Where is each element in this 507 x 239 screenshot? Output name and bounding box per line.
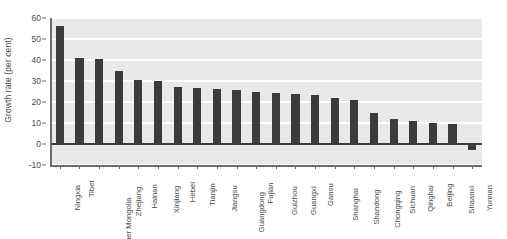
x-axis-tick-label: Jiangsu bbox=[230, 185, 239, 212]
x-axis-tick-label: Hebei bbox=[188, 182, 197, 202]
x-axis-tick-label: Zhejiang bbox=[133, 187, 142, 217]
y-axis-tick-mark bbox=[42, 81, 46, 82]
y-axis-tick-label: 10 bbox=[32, 118, 41, 128]
x-axis-tick-mark bbox=[158, 165, 159, 169]
y-axis-tick-mark bbox=[42, 144, 46, 145]
y-axis-tick-label: 0 bbox=[36, 139, 41, 149]
plot-area bbox=[50, 18, 482, 165]
bar bbox=[448, 124, 456, 144]
bar bbox=[390, 119, 398, 144]
x-axis-tick-label: Tianjin bbox=[208, 183, 217, 205]
bar-series bbox=[50, 18, 482, 165]
y-axis-tick-label: 60 bbox=[32, 13, 41, 23]
y-axis-tick-mark bbox=[42, 18, 46, 19]
x-axis-tick-mark bbox=[79, 165, 80, 169]
y-axis-tick-label: 40 bbox=[32, 55, 41, 65]
x-axis-tick-mark bbox=[99, 165, 100, 169]
x-axis-tick-mark bbox=[295, 165, 296, 169]
x-axis-tick-label: Sichuan bbox=[408, 186, 417, 214]
y-axis-tick-label: 20 bbox=[32, 97, 41, 107]
y-axis-tick-mark bbox=[42, 123, 46, 124]
bar bbox=[115, 71, 123, 145]
x-axis-tick-label: Chongqing bbox=[393, 191, 402, 228]
x-axis-tick-mark bbox=[374, 165, 375, 169]
bar bbox=[232, 90, 240, 144]
bar bbox=[468, 144, 476, 150]
x-axis-tick-mark bbox=[178, 165, 179, 169]
x-axis-spine bbox=[50, 165, 482, 167]
y-axis-spine bbox=[50, 18, 52, 165]
x-axis-tick-label: Shandong bbox=[372, 190, 381, 225]
bar-chart: Growth rate (per cent) 6050403020100-10 … bbox=[0, 0, 507, 239]
x-axis-tick-label: Guizhou bbox=[290, 186, 299, 215]
bar bbox=[331, 98, 339, 144]
x-axis-tick-label: Hainan bbox=[151, 184, 160, 208]
y-axis-tick-mark bbox=[42, 102, 46, 103]
x-axis-tick-mark bbox=[433, 165, 434, 169]
x-axis-tick-mark bbox=[256, 165, 257, 169]
y-axis-tick-label: 30 bbox=[32, 76, 41, 86]
bar bbox=[429, 123, 437, 144]
bar bbox=[95, 59, 103, 144]
y-axis-tick-mark bbox=[42, 165, 46, 166]
bar bbox=[350, 100, 358, 144]
x-axis-tick-mark bbox=[237, 165, 238, 169]
x-axis-tick-mark bbox=[453, 165, 454, 169]
x-axis-tick-label: Qinghai bbox=[427, 185, 436, 212]
y-axis-tick-mark bbox=[42, 60, 46, 61]
x-axis-tick-label: Guangdong bbox=[257, 192, 266, 232]
bar bbox=[252, 92, 260, 145]
x-axis-tick-mark bbox=[335, 165, 336, 169]
x-axis-tick-label: Gansu bbox=[326, 183, 335, 206]
bar bbox=[134, 80, 142, 144]
bar bbox=[272, 93, 280, 144]
bar bbox=[75, 58, 83, 144]
x-axis-tick-label: Shaanxi bbox=[466, 186, 475, 214]
x-axis-tick-mark bbox=[354, 165, 355, 169]
x-axis-tick-mark bbox=[276, 165, 277, 169]
bar bbox=[56, 26, 64, 144]
x-axis-tick-mark bbox=[217, 165, 218, 169]
x-axis-tick-mark bbox=[413, 165, 414, 169]
x-axis-tick-label: Fujian bbox=[267, 182, 276, 203]
x-axis-tick-mark bbox=[472, 165, 473, 169]
y-axis-tick-mark bbox=[42, 39, 46, 40]
x-axis-tick-mark bbox=[119, 165, 120, 169]
y-axis-title: Growth rate (per cent) bbox=[0, 0, 16, 160]
x-axis-tick-label: Beijing bbox=[444, 184, 453, 207]
x-axis-tick-mark bbox=[197, 165, 198, 169]
bar bbox=[213, 89, 221, 144]
y-axis-tick-label: -10 bbox=[29, 160, 41, 170]
y-axis-title-text: Growth rate (per cent) bbox=[3, 37, 13, 122]
x-axis-tick-label: Guangxi bbox=[310, 186, 319, 215]
x-axis-tick-label: Shanghai bbox=[351, 188, 360, 221]
y-axis-tick-label: 50 bbox=[32, 34, 41, 44]
bar bbox=[370, 113, 378, 145]
bar bbox=[193, 88, 201, 144]
bar bbox=[311, 95, 319, 144]
bar bbox=[174, 87, 182, 144]
x-axis-tick-label: Xinjiang bbox=[172, 186, 181, 213]
bar bbox=[291, 94, 299, 144]
x-axis-tick-label: Tibet bbox=[88, 180, 97, 197]
x-axis-tick-label: Inner Mongolia bbox=[125, 197, 134, 239]
x-axis-tick-mark bbox=[315, 165, 316, 169]
bar bbox=[154, 81, 162, 144]
x-axis-tick-mark bbox=[60, 165, 61, 169]
bar bbox=[409, 121, 417, 144]
x-axis-tick-label: Yunnan bbox=[485, 185, 494, 211]
x-axis-tick-mark bbox=[394, 165, 395, 169]
x-axis-tick-mark bbox=[138, 165, 139, 169]
y-axis: 6050403020100-10 bbox=[16, 8, 46, 173]
x-axis-tick-label: Ningxia bbox=[73, 185, 82, 211]
